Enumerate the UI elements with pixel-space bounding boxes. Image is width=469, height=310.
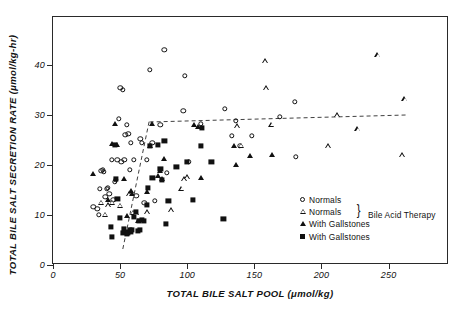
- x-tick-label: 150: [247, 270, 263, 280]
- x-tick-label: 50: [115, 270, 125, 280]
- plot-area: 010203040 050100150200250 Normals Normal…: [52, 16, 448, 264]
- open-triangle-icon: [296, 205, 309, 217]
- open-circle-icon: [296, 193, 309, 205]
- filled-square-icon: [296, 230, 309, 242]
- figure-root: TOTAL BILE SALT SECRETION RATE (μmol/kg-…: [0, 0, 469, 310]
- x-tick-label: 250: [381, 270, 397, 280]
- y-tick-label: 30: [35, 110, 45, 120]
- bile-acid-therapy-annotation: Bile Acid Therapy: [368, 209, 436, 221]
- y-tick-label: 40: [35, 60, 45, 70]
- legend-label: Normals: [309, 194, 341, 206]
- y-axis-title: TOTAL BILE SALT SECRETION RATE (μmol/kg-…: [7, 30, 18, 280]
- x-axis-title: TOTAL BILE SALT POOL (μmol/kg): [52, 288, 448, 299]
- y-tick-label: 10: [35, 210, 45, 220]
- x-tick-label: 0: [50, 270, 55, 280]
- brace-icon: }: [357, 205, 361, 215]
- x-tick-label: 100: [179, 270, 195, 280]
- filled-triangle-icon: [296, 217, 309, 229]
- plateau-dashed: [150, 115, 406, 122]
- y-tick-label: 20: [35, 160, 45, 170]
- steep-rising-dashed: [123, 119, 150, 249]
- legend-label: With Gallstones: [309, 218, 370, 230]
- legend: Normals Normals With Gallstones With Gal…: [296, 193, 370, 243]
- legend-item-gallstones-square: With Gallstones: [296, 230, 370, 242]
- legend-label: With Gallstones: [309, 231, 370, 243]
- x-tick-label: 200: [314, 270, 330, 280]
- y-tick-label: 0: [40, 260, 45, 270]
- legend-label: Normals: [309, 206, 341, 218]
- fit-lines: [53, 17, 449, 265]
- legend-item-gallstones-triangle: With Gallstones: [296, 218, 370, 230]
